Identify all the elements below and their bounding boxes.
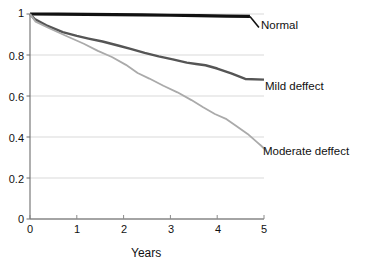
x-tick-label: 1 [69,224,85,235]
series-line-moderate-deffect [30,14,264,148]
leader-line-normal [250,16,259,27]
x-tick-label: 5 [256,224,272,235]
series-line-mild-deffect [30,14,264,80]
y-tick-label: 0 [0,214,24,225]
x-tick-label: 4 [210,224,226,235]
x-tick-label: 0 [22,224,38,235]
y-tick-label: 0.4 [0,133,24,144]
y-tick-label: 0.8 [0,51,24,62]
y-tick-label: 1 [0,8,24,19]
series-label-moderate-deffect: Moderate deffect [263,145,349,157]
series-line-normal [30,14,250,16]
y-tick-label: 0.6 [0,92,24,103]
axis-ticks-group [27,14,265,219]
series-label-normal: Normal [261,19,298,31]
y-tick-label: 0.2 [0,174,24,185]
gridlines-group [30,14,264,178]
plot-area [0,0,369,271]
x-axis-title: Years [131,247,161,259]
x-tick-label: 3 [163,224,179,235]
series-lines-group [30,14,264,148]
x-tick-label: 2 [116,224,132,235]
axes-group [30,14,264,219]
series-label-mild-deffect: Mild deffect [265,80,324,92]
survival-curve-chart: 1 0.8 0.6 0.4 0.2 0 0 1 2 3 4 5 Years No… [0,0,369,271]
